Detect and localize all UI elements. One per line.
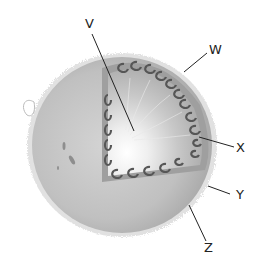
label-y: Y — [236, 188, 244, 201]
leader-y — [208, 186, 230, 194]
sun-illustration — [0, 0, 261, 265]
label-w: W — [209, 43, 222, 56]
label-x: X — [236, 141, 245, 154]
prominence — [23, 100, 34, 115]
sun-diagram: V W X Y Z — [0, 0, 261, 265]
label-z: Z — [204, 241, 213, 254]
leader-z — [189, 205, 206, 241]
label-v: V — [85, 17, 94, 30]
leader-w — [184, 53, 207, 72]
